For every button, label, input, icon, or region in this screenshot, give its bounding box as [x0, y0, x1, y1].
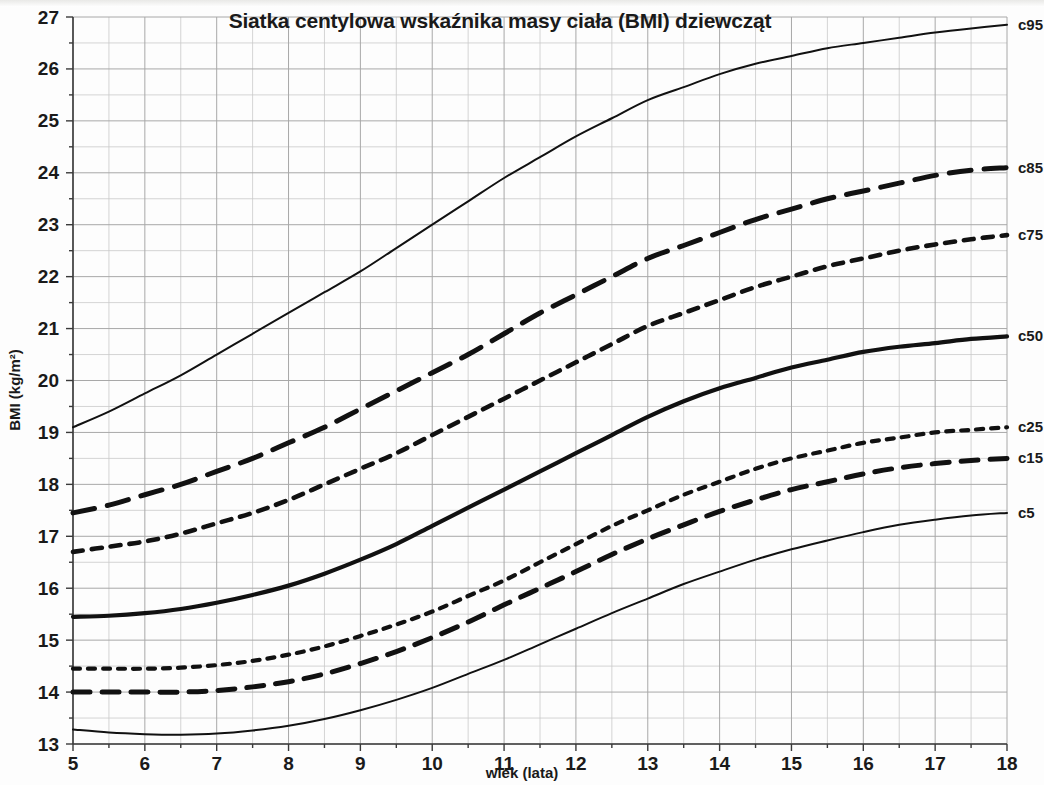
y-tick-label: 15 [38, 630, 60, 651]
y-tick-label: 18 [38, 474, 59, 495]
curve-label-c15: c15 [1018, 449, 1043, 466]
x-tick-label: 10 [422, 753, 443, 774]
curve-label-c25: c25 [1018, 418, 1043, 435]
y-tick-label: 24 [38, 162, 60, 183]
y-tick-label: 20 [38, 370, 59, 391]
y-tick-label: 23 [38, 214, 59, 235]
y-tick-label: 27 [38, 7, 59, 28]
x-tick-label: 12 [565, 753, 586, 774]
x-tick-label: 6 [140, 753, 151, 774]
y-tick-label: 22 [38, 266, 59, 287]
y-tick-label: 16 [38, 578, 59, 599]
x-tick-label: 5 [68, 753, 79, 774]
y-tick-label: 17 [38, 526, 59, 547]
y-tick-label: 25 [38, 110, 60, 131]
x-tick-label: 7 [211, 753, 222, 774]
scan-artifact-band [0, 0, 1044, 7]
curve-label-c5: c5 [1018, 504, 1035, 521]
y-axis-tick-labels: 131415161718192021222324252627 [38, 7, 60, 755]
x-tick-label: 18 [996, 753, 1017, 774]
x-tick-label: 16 [853, 753, 874, 774]
curve-label-c50: c50 [1018, 327, 1043, 344]
y-tick-label: 19 [38, 422, 59, 443]
x-tick-label: 14 [709, 753, 731, 774]
x-tick-label: 9 [355, 753, 366, 774]
x-tick-label: 13 [637, 753, 658, 774]
curve-label-c85: c85 [1018, 159, 1043, 176]
chart-canvas: 131415161718192021222324252627 567891011… [0, 0, 1044, 785]
x-tick-label: 15 [781, 753, 803, 774]
x-tick-label: 8 [283, 753, 294, 774]
y-tick-label: 21 [38, 318, 60, 339]
x-tick-label: 17 [925, 753, 946, 774]
y-tick-label: 13 [38, 734, 59, 755]
bmi-percentile-chart: 131415161718192021222324252627 567891011… [0, 0, 1044, 785]
y-tick-label: 14 [38, 682, 60, 703]
page-title: Siatka centylowa wskaźnika masy ciała (B… [229, 9, 772, 32]
curve-label-c75: c75 [1018, 226, 1043, 243]
x-axis-title: wiek (lata) [485, 764, 559, 781]
curve-label-c95: c95 [1018, 16, 1043, 33]
y-axis-title: BMI (kg/m²) [6, 349, 23, 431]
percentile-curve-labels: c95c85c75c50c25c15c5 [1018, 16, 1043, 521]
y-tick-label: 26 [38, 58, 59, 79]
